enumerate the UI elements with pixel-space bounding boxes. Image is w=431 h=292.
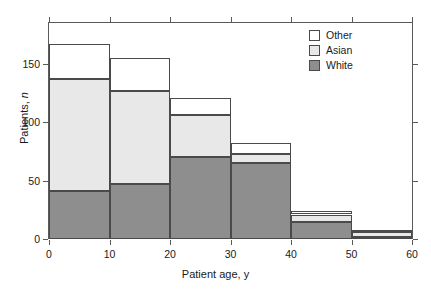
x-tick-bottom <box>352 240 353 245</box>
y-tick-right <box>413 239 418 240</box>
x-tick-top <box>49 17 50 22</box>
x-tick-top <box>231 17 232 22</box>
y-axis-title-main: Patients, <box>18 98 30 144</box>
x-tick-label: 20 <box>164 248 176 260</box>
y-tick-left <box>43 239 48 240</box>
legend-item-other: Other <box>309 28 353 43</box>
bar-20-30 <box>170 98 231 239</box>
x-tick-label: 10 <box>104 248 116 260</box>
x-tick-label: 30 <box>225 248 237 260</box>
x-tick-top <box>110 17 111 22</box>
legend-label-other: Other <box>326 30 352 41</box>
y-tick-left <box>43 181 48 182</box>
x-tick-bottom <box>231 240 232 245</box>
legend-swatch-white <box>309 60 320 71</box>
x-tick-bottom <box>49 240 50 245</box>
bar-segment-other <box>291 211 352 215</box>
bar-segment-white <box>49 191 110 239</box>
y-tick-label: 0 <box>14 233 40 245</box>
x-tick-label: 50 <box>346 248 358 260</box>
bar-segment-white <box>170 157 231 239</box>
legend-swatch-asian <box>309 45 320 56</box>
legend-item-asian: Asian <box>309 43 353 58</box>
x-tick-top <box>412 17 413 22</box>
bar-segment-other <box>231 143 292 154</box>
bar-segment-asian <box>231 154 292 163</box>
legend-label-asian: Asian <box>326 45 352 56</box>
x-axis-title: Patient age, y <box>0 268 431 280</box>
bar-0-10 <box>49 44 110 239</box>
x-tick-label: 60 <box>406 248 418 260</box>
bar-segment-white <box>231 163 292 239</box>
chart-legend: OtherAsianWhite <box>309 28 353 73</box>
bar-40-50 <box>291 211 352 239</box>
bar-segment-asian <box>291 215 352 222</box>
x-tick-bottom <box>291 240 292 245</box>
bar-segment-asian <box>49 79 110 191</box>
x-tick-top <box>352 17 353 22</box>
y-tick-right <box>413 64 418 65</box>
legend-item-white: White <box>309 58 353 73</box>
x-tick-bottom <box>412 240 413 245</box>
y-tick-right <box>413 122 418 123</box>
y-tick-left <box>43 122 48 123</box>
y-axis-title-italic: n <box>18 92 30 98</box>
legend-swatch-other <box>309 30 320 41</box>
legend-label-white: White <box>326 60 353 71</box>
bar-segment-white <box>110 184 171 239</box>
x-tick-label: 0 <box>46 248 52 260</box>
bar-segment-white <box>352 237 413 239</box>
bar-segment-asian <box>170 115 231 157</box>
y-axis-title: Patients, n <box>18 48 30 188</box>
bar-30-40 <box>231 143 292 239</box>
plot-area <box>49 23 412 239</box>
x-tick-top <box>170 17 171 22</box>
bar-10-20 <box>110 58 171 239</box>
bar-segment-other <box>49 44 110 79</box>
x-tick-bottom <box>110 240 111 245</box>
bar-segment-white <box>291 222 352 240</box>
bar-segment-asian <box>110 91 171 184</box>
y-tick-left <box>43 64 48 65</box>
x-tick-label: 40 <box>285 248 297 260</box>
bar-50-60 <box>352 230 413 239</box>
x-tick-top <box>291 17 292 22</box>
bar-segment-other <box>110 58 171 91</box>
bar-segment-other <box>352 230 413 232</box>
chart-figure: 0102030405060050100150 Patient age, y Pa… <box>0 0 431 292</box>
y-tick-right <box>413 181 418 182</box>
x-tick-bottom <box>170 240 171 245</box>
bar-segment-asian <box>352 232 413 237</box>
bar-segment-other <box>170 98 231 116</box>
